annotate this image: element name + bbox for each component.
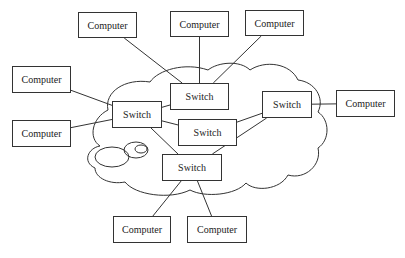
edge-switch-left-to-switch-top (162, 105, 170, 107)
small-cloud-puff-2 (124, 142, 148, 158)
edge-computer-top-left-to-switch-top (124, 38, 182, 83)
computer-top-right-box: Computer (245, 10, 304, 36)
computer-bottom-left-box: Computer (113, 216, 171, 243)
edge-switch-bottom-to-computer-bottom-left (153, 181, 181, 216)
node-label: Computer (255, 18, 295, 29)
computer-right-box: Computer (336, 90, 395, 117)
small-cloud-puff-3 (135, 145, 147, 153)
edge-computer-left-1-to-switch-left (71, 90, 112, 105)
computer-top-mid-box: Computer (170, 11, 229, 37)
edge-switch-left-to-switch-center (162, 121, 178, 125)
switch-top-box: Switch (170, 83, 229, 110)
switch-right-box: Switch (262, 91, 312, 118)
edge-computer-left-2-to-switch-left (71, 119, 112, 127)
edge-switch-left-to-switch-bottom (151, 128, 178, 154)
edge-computer-top-right-to-switch-top (213, 36, 261, 83)
computer-left-2-box: Computer (12, 120, 71, 147)
switch-left-box: Switch (112, 101, 162, 128)
node-label: Switch (194, 127, 222, 138)
node-label: Switch (186, 91, 214, 102)
node-label: Switch (123, 109, 151, 120)
computer-bottom-right-box: Computer (187, 216, 247, 243)
edge-switch-bottom-to-computer-bottom-right (197, 181, 211, 216)
computer-top-left-box: Computer (78, 12, 137, 38)
switch-bottom-box: Switch (162, 154, 222, 181)
node-label: Computer (197, 224, 237, 235)
edge-switch-center-to-switch-right (237, 113, 262, 122)
computer-left-1-box: Computer (12, 66, 71, 93)
node-label: Computer (22, 128, 62, 139)
node-label: Switch (178, 162, 206, 173)
node-label: Computer (122, 224, 162, 235)
node-label: Computer (346, 98, 386, 109)
switch-center-box: Switch (178, 119, 237, 146)
node-label: Computer (180, 19, 220, 30)
node-label: Switch (273, 99, 301, 110)
node-label: Computer (22, 74, 62, 85)
node-label: Computer (88, 20, 128, 31)
